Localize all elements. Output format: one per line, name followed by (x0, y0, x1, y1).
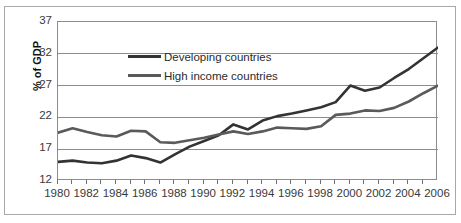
x-tick-1984: 1984 (101, 188, 129, 200)
legend-swatch-high-income (128, 74, 161, 77)
x-tick-1982: 1982 (72, 188, 100, 200)
x-tick-1996: 1996 (277, 188, 305, 200)
legend-swatch-developing (128, 55, 161, 58)
chart-legend: Developing countries High income countri… (128, 48, 278, 86)
legend-label-high-income: High income countries (164, 70, 278, 82)
gridlines (58, 22, 438, 181)
chart-figure: % of GDP 373227221712 Developing countri… (0, 0, 461, 223)
x-tick-1980: 1980 (43, 188, 71, 200)
x-tick-2004: 2004 (394, 188, 422, 200)
x-tick-2006: 2006 (423, 188, 451, 200)
legend-item-developing: Developing countries (128, 48, 278, 65)
y-tick-32: 32 (22, 47, 52, 59)
legend-label-developing: Developing countries (164, 51, 271, 63)
legend-item-high-income: High income countries (128, 67, 278, 84)
x-tick-1990: 1990 (189, 188, 217, 200)
x-tick-1992: 1992 (218, 188, 246, 200)
y-tick-37: 37 (22, 15, 52, 27)
plot-area: Developing countries High income countri… (57, 21, 437, 180)
y-tick-22: 22 (22, 110, 52, 122)
x-tick-1998: 1998 (306, 188, 334, 200)
x-tick-1994: 1994 (248, 188, 276, 200)
x-tick-1988: 1988 (160, 188, 188, 200)
y-tick-27: 27 (22, 79, 52, 91)
series-line-high-income (58, 86, 438, 143)
x-axis-tick-labels: 1980198219841986198819901992199419961998… (57, 188, 437, 204)
x-tick-1986: 1986 (131, 188, 159, 200)
y-tick-12: 12 (22, 174, 52, 186)
y-tick-17: 17 (22, 142, 52, 154)
x-axis-tick-marks (57, 180, 437, 186)
x-tick-2002: 2002 (365, 188, 393, 200)
plot-lines-svg (58, 22, 438, 181)
x-tick-2000: 2000 (335, 188, 363, 200)
